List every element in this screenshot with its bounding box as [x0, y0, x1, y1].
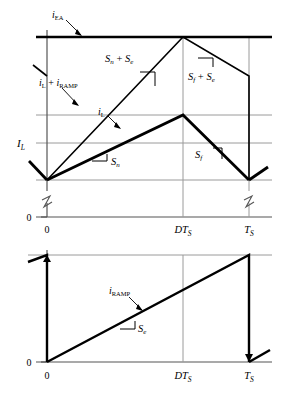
label-iramp: iRAMP	[109, 285, 131, 297]
label-sf: Sf	[195, 149, 203, 162]
upper-xtick-label-ts: TS	[244, 224, 254, 238]
label-se: Se	[138, 323, 146, 336]
label-il: iL	[98, 106, 105, 118]
label-iea: iEA	[52, 9, 64, 21]
curve-il-partial-right	[249, 167, 268, 180]
ts-axis-break-icon	[244, 196, 254, 207]
label-sf-plus-se: Sf + Se	[188, 71, 215, 84]
lower-xtick-label-dts: DTS	[173, 370, 191, 384]
curve-il-plus-iramp	[47, 37, 249, 180]
curve-iramp-partial-left	[28, 255, 47, 362]
lower-xtick-label-ts: TS	[244, 370, 254, 384]
lower-y-origin-label: 0	[27, 357, 32, 368]
lower-xtick-label-0: 0	[45, 370, 50, 381]
curve-iramp-partial-right	[249, 350, 270, 362]
upper-y-origin-label: 0	[27, 212, 32, 223]
label-capital-il: IL	[16, 137, 25, 152]
waveform-figure: iEA iL + iRAMP iL Sn + Se Sf + Se Sn Sf	[0, 0, 287, 405]
curve-il-partial-left	[29, 161, 47, 180]
label-sn: Sn	[111, 156, 120, 169]
curve-il-plus-iramp-partial-left	[33, 65, 47, 76]
curve-iramp	[47, 255, 249, 362]
label-sn-plus-se: Sn + Se	[105, 53, 133, 66]
upper-xtick-label-0: 0	[45, 224, 50, 235]
upper-xtick-label-dts: DTS	[173, 224, 191, 238]
upper-panel: iEA iL + iRAMP iL Sn + Se Sf + Se Sn Sf	[16, 9, 272, 238]
slope-marker-sf-plus-se	[198, 58, 213, 67]
y-axis-break-icon	[42, 196, 52, 207]
lower-panel: iRAMP Se 0 0 DTS TS	[27, 250, 273, 384]
label-il-plus-iramp: iL + iRAMP	[39, 77, 78, 89]
upper-gridlines	[36, 37, 272, 180]
